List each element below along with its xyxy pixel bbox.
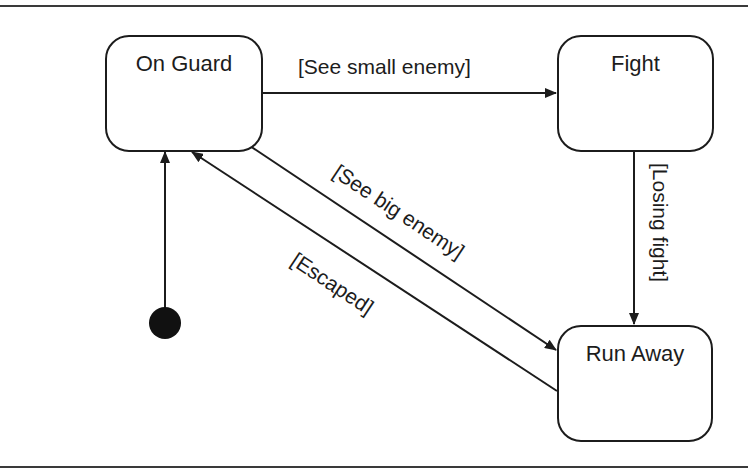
state-run-away[interactable]: Run Away: [557, 325, 713, 442]
state-on-guard-label: On Guard: [107, 51, 261, 77]
state-fight-label: Fight: [559, 51, 712, 77]
see-small-enemy-label: [See small enemy]: [298, 55, 471, 79]
state-diagram: On Guard Fight Run Away [See small enemy…: [0, 0, 748, 470]
losing-fight-label: [Losing fight]: [648, 163, 672, 282]
initial-state-dot: [149, 307, 181, 339]
state-run-away-label: Run Away: [559, 341, 711, 367]
state-on-guard[interactable]: On Guard: [105, 35, 263, 152]
state-fight[interactable]: Fight: [557, 35, 714, 152]
see-big-enemy-arrow: [250, 146, 556, 350]
